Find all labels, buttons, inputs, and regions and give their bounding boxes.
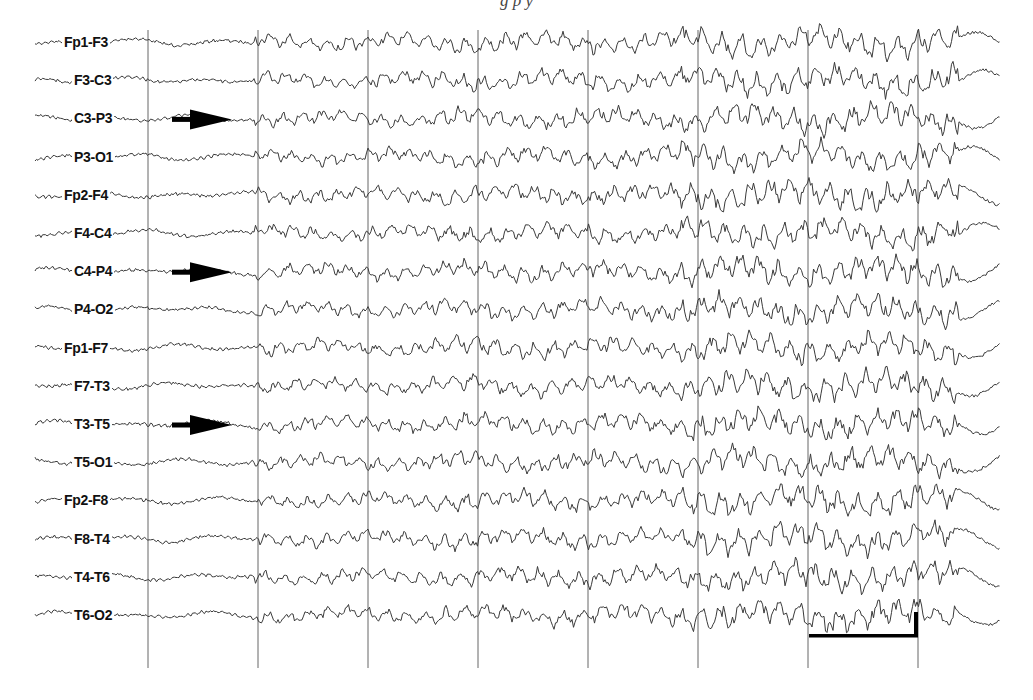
channel-label: P3-O1 xyxy=(72,149,115,165)
channel-label: F8-T4 xyxy=(72,531,112,547)
eeg-channel-trace xyxy=(35,443,1000,479)
eeg-channel-trace xyxy=(35,137,1000,174)
eeg-tracing xyxy=(0,0,1033,700)
channel-label: C4-P4 xyxy=(72,263,114,279)
eeg-channel-trace xyxy=(35,178,1000,213)
channel-label: F7-T3 xyxy=(72,378,112,394)
channel-label: P4-O2 xyxy=(72,301,115,317)
eeg-channel-trace xyxy=(35,520,1000,559)
eeg-channel-trace xyxy=(35,61,1000,99)
channel-label: C3-P3 xyxy=(72,110,114,126)
eeg-channel-trace xyxy=(35,366,1000,403)
eeg-channel-trace xyxy=(35,24,1000,62)
channel-label: Fp2-F8 xyxy=(62,492,110,508)
eeg-channel-trace xyxy=(35,330,1000,366)
eeg-channel-trace xyxy=(35,484,1000,516)
channel-label: F3-C3 xyxy=(72,72,113,88)
eeg-channel-trace xyxy=(35,216,1000,251)
eeg-channel-trace xyxy=(35,290,1000,330)
eeg-channel-trace xyxy=(35,599,1000,633)
channel-label: T3-T5 xyxy=(72,416,112,432)
channel-label: T4-T6 xyxy=(72,569,112,585)
channel-label: Fp2-F4 xyxy=(62,187,110,203)
channel-label: T5-O1 xyxy=(72,454,114,470)
channel-label: T6-O2 xyxy=(72,607,114,623)
channel-label: F4-C4 xyxy=(72,225,113,241)
channel-label: Fp1-F3 xyxy=(62,34,110,50)
arrow-icon xyxy=(172,262,232,282)
arrow-icon xyxy=(172,415,232,435)
channel-label: Fp1-F7 xyxy=(62,340,110,356)
eeg-channel-trace xyxy=(35,557,1000,595)
arrow-icon xyxy=(172,109,232,129)
